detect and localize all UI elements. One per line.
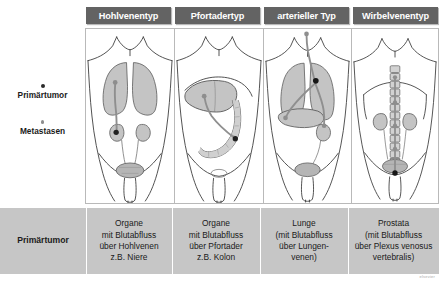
kidney-organ — [313, 124, 331, 164]
column-header-wirbelvenentyp: Wirbelvenentyp — [353, 7, 438, 24]
diagram-hohlvenentyp — [85, 29, 174, 203]
bladder-organ — [116, 163, 144, 178]
primary-tumor-marker — [392, 170, 397, 175]
column-header-pfortadertyp: Pfortadertyp — [175, 7, 260, 24]
table-cell-pfortadertyp: Organe mit Blutabfluss über Pfortader z.… — [172, 208, 260, 274]
metastasis-marker — [113, 80, 118, 85]
metastasis-marker-brain — [304, 32, 309, 37]
table-divider — [172, 208, 173, 274]
bladder-organ — [295, 163, 320, 177]
table-divider — [260, 208, 261, 274]
column-header-label: Hohlvenentyp — [99, 11, 159, 21]
metastasis-marker-mid — [393, 100, 397, 104]
legend: Primärtumor Metastasen — [0, 28, 85, 204]
table-cell-wirbelvenentyp: Prostata (mit Blutabfluss über Plexus ve… — [348, 208, 439, 274]
column-header-label: Wirbelvenentyp — [362, 11, 429, 21]
publisher-watermark: elsevier — [420, 274, 435, 279]
column-header-arterieller-typ: arterieller Typ — [264, 7, 349, 24]
metastasis-marker-lumbar — [393, 147, 397, 151]
primary-tumor-dot-icon — [41, 84, 45, 88]
torso-illustration-hohlvenentyp — [86, 29, 174, 203]
legend-item-metastasen: Metastasen — [0, 120, 85, 136]
primary-tumor-marker — [233, 136, 238, 141]
column-header-label: Pfortadertyp — [191, 11, 244, 21]
summary-table-row: Primärtumor Organe mit Blutabfluss über … — [0, 208, 439, 274]
column-header-label: arterieller Typ — [277, 11, 336, 21]
table-cell-text: Organe mit Blutabfluss über Hohlvenen z.… — [99, 218, 158, 264]
diagram-wirbelvenentyp — [351, 29, 439, 203]
diagram-arterieller-typ — [263, 29, 351, 203]
table-cell-text: Organe mit Blutabfluss über Pfortader z.… — [189, 218, 243, 264]
table-cell-arterieller-typ: Lunge (mit Blutabfluss über Lungen- vene… — [260, 208, 348, 274]
table-divider — [348, 208, 349, 274]
metastasis-marker-thoracic — [393, 124, 397, 128]
primary-tumor-marker — [313, 78, 319, 84]
legend-item-primaertumor: Primärtumor — [0, 84, 85, 100]
liver-organ — [185, 80, 237, 112]
metastasis-marker-liver — [283, 116, 288, 121]
table-row-header: Primärtumor — [0, 208, 86, 274]
metastasis-dot-icon — [41, 120, 45, 124]
lungs-organ — [103, 63, 157, 116]
table-divider — [86, 208, 87, 274]
legend-label: Primärtumor — [18, 90, 68, 100]
torso-illustration-pfortadertyp — [175, 29, 263, 203]
table-cell-text: Prostata (mit Blutabfluss über Plexus ve… — [355, 218, 433, 264]
column-header-hohlvenentyp: Hohlvenentyp — [86, 7, 171, 24]
primary-tumor-marker — [113, 130, 118, 135]
diagram-pfortadertyp — [174, 29, 263, 203]
table-row-header-label: Primärtumor — [17, 235, 69, 246]
metastasis-marker-kidney — [322, 123, 327, 128]
metastasis-marker-cervical — [393, 75, 397, 79]
torso-illustration-wirbelvenentyp — [352, 29, 438, 203]
table-cell-hohlvenentyp: Organe mit Blutabfluss über Hohlvenen z.… — [86, 208, 172, 274]
torso-illustration-arterieller-typ — [264, 29, 351, 203]
diagram-root: Hohlvenentyp Pfortadertyp arterieller Ty… — [0, 0, 439, 281]
metastasis-marker — [202, 94, 207, 99]
table-cell-text: Lunge (mit Blutabfluss über Lungen- vene… — [275, 218, 332, 264]
figure-row — [85, 28, 439, 204]
legend-label: Metastasen — [20, 126, 65, 136]
